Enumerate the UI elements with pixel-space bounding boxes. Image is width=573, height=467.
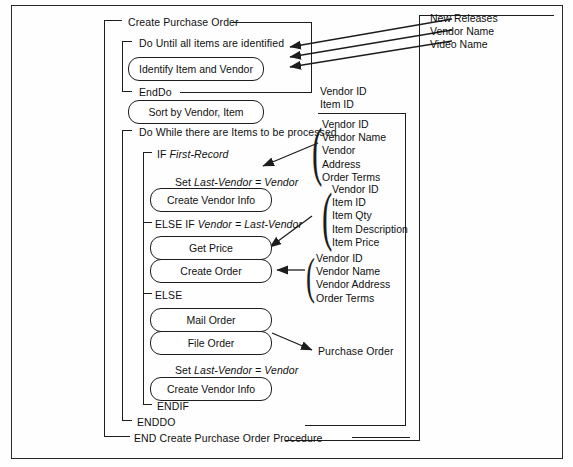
data-item: Item ID: [320, 98, 367, 111]
do-until-bracket-top: [122, 41, 132, 42]
data-item: Vendor: [322, 144, 386, 157]
do-while-bracket-vertical: [122, 130, 123, 421]
data-item: Vendor ID: [332, 183, 408, 196]
data-item: Vendor ID: [316, 252, 390, 265]
data-group-order-vendor: Vendor ID Vendor Name Vendor Address Ord…: [316, 252, 390, 305]
data-group-new-releases: New Releases Vendor Name Video Name: [430, 12, 498, 52]
data-item: Item Description: [332, 223, 408, 236]
else-if-bracket-tick: [143, 222, 152, 223]
data-item: Vendor Name: [316, 265, 390, 278]
process-box-mail-order[interactable]: Mail Order: [150, 308, 272, 332]
if-keyword: IF: [157, 148, 170, 160]
data-group-vendor-item-id: Vendor ID Item ID: [320, 85, 367, 111]
data-item: Item ID: [332, 196, 408, 209]
brace-item-detail: (: [322, 183, 332, 248]
set-expression-2: Last-Vendor = Vendor: [194, 364, 298, 376]
do-while-bracket-bottom: [122, 420, 132, 421]
if-condition: First-Record: [170, 148, 229, 160]
outer-data-container-left: [419, 15, 420, 441]
set-keyword-1: Set: [175, 176, 194, 188]
inner-data-container-right: [405, 113, 406, 426]
do-until-bracket-bottom: [122, 91, 132, 92]
data-group-item-detail: Vendor ID Item ID Item Qty Item Descript…: [332, 183, 408, 249]
do-while-bracket-top: [122, 130, 132, 131]
if-bracket-vertical: [143, 152, 144, 405]
label-set-1: Set Last-Vendor = Vendor: [175, 176, 298, 188]
data-item: Vendor ID: [322, 118, 386, 131]
process-box-file-order[interactable]: File Order: [150, 331, 272, 355]
label-enddo-outer: ENDDO: [137, 416, 175, 428]
data-item: Vendor Name: [322, 131, 386, 144]
label-do-until: Do Until all items are identified: [139, 37, 284, 49]
diagram-canvas: Create Purchase Order Do Until all items…: [0, 0, 573, 467]
else-bracket-tick: [143, 293, 152, 294]
label-purchase-order-output: Purchase Order: [318, 345, 394, 357]
data-item: Vendor Name: [430, 25, 498, 38]
set-expression-1: Last-Vendor = Vendor: [194, 176, 298, 188]
process-box-identify-item-and-vendor[interactable]: Identify Item and Vendor: [128, 57, 264, 81]
label-enddo-inner: EndDo: [139, 86, 172, 98]
enddo-leader-horizontal: [180, 92, 312, 93]
label-set-2: Set Last-Vendor = Vendor: [175, 364, 298, 376]
label-else: ELSE: [155, 289, 182, 301]
endif-bracket-bottom: [143, 404, 152, 405]
procedure-bracket-top: [104, 20, 122, 21]
procedure-bracket-vertical: [104, 20, 105, 437]
elseif-condition: Vendor = Last-Vendor: [198, 218, 302, 230]
set-keyword-2: Set: [175, 364, 194, 376]
if-bracket-top: [143, 152, 152, 153]
diagram-outer-frame: [11, 5, 563, 459]
inner-data-container-top: [318, 113, 406, 114]
inner-data-container-bottom: [305, 425, 406, 426]
label-end-procedure: END Create Purchase Order Procedure: [134, 432, 323, 444]
data-item: Vendor ID: [320, 85, 367, 98]
brace-order-vendor: (: [306, 251, 315, 302]
data-group-vendor-master: Vendor ID Vendor Name Vendor Address Ord…: [322, 118, 386, 184]
process-box-sort-by-vendor-item[interactable]: Sort by Vendor, Item: [128, 100, 264, 124]
data-item: New Releases: [430, 12, 498, 25]
data-item: Address: [322, 158, 386, 171]
process-box-create-vendor-info-1[interactable]: Create Vendor Info: [150, 188, 272, 212]
end-procedure-leader: [352, 437, 410, 438]
create-po-leader-horizontal: [232, 22, 312, 23]
process-box-get-price[interactable]: Get Price: [150, 236, 272, 260]
label-endif: ENDIF: [157, 400, 189, 412]
process-box-create-order[interactable]: Create Order: [150, 259, 272, 283]
do-until-bracket-vertical: [122, 41, 123, 92]
data-item: Order Terms: [316, 292, 390, 305]
label-do-while: Do While there are Items to be processed: [139, 126, 337, 138]
procedure-bracket-bottom: [104, 436, 130, 437]
process-box-create-vendor-info-2[interactable]: Create Vendor Info: [150, 377, 272, 401]
data-item: Item Qty: [332, 209, 408, 222]
brace-vendor-master: (: [312, 118, 322, 183]
data-item: Item Price: [332, 236, 408, 249]
create-po-leader-vertical: [311, 22, 312, 93]
data-item: Video Name: [430, 38, 498, 51]
label-create-purchase-order: Create Purchase Order: [128, 16, 239, 28]
data-item: Vendor Address: [316, 278, 390, 291]
label-if: IF First-Record: [157, 148, 229, 160]
elseif-keyword: ELSE IF: [155, 218, 198, 230]
label-else-if: ELSE IF Vendor = Last-Vendor: [155, 218, 302, 230]
